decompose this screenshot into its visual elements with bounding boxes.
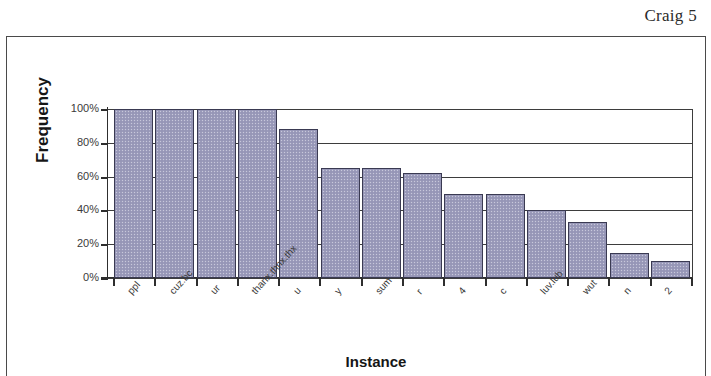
bar bbox=[403, 173, 442, 278]
bar bbox=[114, 109, 153, 278]
bar bbox=[444, 194, 483, 279]
x-axis-tick bbox=[196, 278, 198, 286]
bar bbox=[610, 253, 649, 278]
x-axis-tick bbox=[608, 278, 610, 286]
x-axis-tick-label: r bbox=[414, 287, 424, 297]
x-axis-tick bbox=[691, 278, 693, 286]
x-axis-tick-label: 2 bbox=[662, 285, 674, 296]
x-axis-tick bbox=[650, 278, 652, 286]
bar bbox=[486, 194, 525, 279]
y-axis-tick-label: 20% bbox=[45, 237, 99, 249]
bar bbox=[651, 261, 690, 278]
figure-frame: Frequency 100%80%60%40%20%0% pplcuz.bcur… bbox=[6, 36, 706, 376]
x-axis-tick-label: 4 bbox=[456, 285, 468, 296]
x-axis-tick bbox=[443, 278, 445, 286]
y-axis-tick-label: 0% bbox=[45, 271, 99, 283]
page-header-label: Craig 5 bbox=[644, 6, 697, 26]
x-axis-tick-label: c bbox=[497, 285, 509, 296]
bar bbox=[362, 168, 401, 278]
x-axis-tick bbox=[278, 278, 280, 286]
x-axis-title: Instance bbox=[7, 353, 705, 370]
y-axis-tick-label: 40% bbox=[45, 203, 99, 215]
x-axis-tick bbox=[526, 278, 528, 286]
x-axis-tick-label: y bbox=[332, 285, 344, 296]
x-axis-tick bbox=[402, 278, 404, 286]
x-axis-tick-label: u bbox=[291, 285, 303, 296]
x-axis-tick bbox=[113, 278, 115, 286]
bar bbox=[155, 109, 194, 278]
bar-series bbox=[107, 109, 693, 278]
y-axis-tick-label: 60% bbox=[45, 170, 99, 182]
bar bbox=[321, 168, 360, 278]
x-axis-tick-label: ppl bbox=[125, 279, 142, 296]
x-axis-tick-label: ur bbox=[208, 282, 222, 296]
bar bbox=[527, 210, 566, 278]
x-axis-tick bbox=[319, 278, 321, 286]
y-axis-tick-label: 80% bbox=[45, 136, 99, 148]
x-axis-tick-label: n bbox=[621, 285, 633, 296]
x-axis-tick bbox=[237, 278, 239, 286]
bar bbox=[238, 109, 277, 278]
bar bbox=[568, 222, 607, 278]
x-axis-tick bbox=[485, 278, 487, 286]
y-axis-tick-label: 100% bbox=[45, 102, 99, 114]
x-axis-tick bbox=[361, 278, 363, 286]
x-axis-tick bbox=[154, 278, 156, 286]
y-axis-tick bbox=[101, 278, 108, 280]
x-axis-tick bbox=[567, 278, 569, 286]
plot-area bbox=[107, 109, 693, 278]
bar bbox=[197, 109, 236, 278]
x-axis-tick-label: wut bbox=[580, 277, 599, 296]
